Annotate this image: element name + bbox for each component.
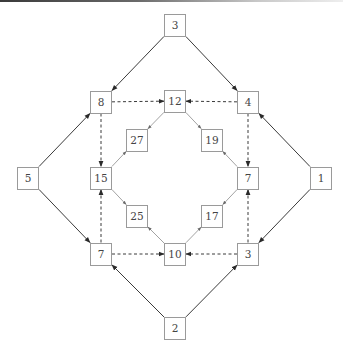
node-label: 7 [98,249,105,260]
edge-n7r-to-n17 [223,190,237,205]
node-label: 19 [205,135,218,146]
node-n8: 8 [90,91,112,114]
node-n7r: 7 [237,167,259,190]
edge-n10-to-n25 [148,227,164,243]
node-n12: 12 [164,90,186,113]
edge-n4-to-n12 [186,101,237,102]
node-label: 10 [168,249,181,260]
node-n25: 25 [126,205,148,228]
node-n17: 17 [201,205,223,228]
node-n10: 10 [164,243,186,266]
edge-n1-to-n3r [259,189,310,242]
node-n7l: 7 [90,243,112,266]
node-n1: 1 [310,167,332,190]
edge-n7r-to-n19 [223,152,237,167]
node-n19: 19 [201,129,223,152]
node-label: 7 [245,173,252,184]
edge-n2-to-n7l [112,265,164,317]
node-label: 1 [318,173,325,184]
edge-n5-to-n8 [39,113,90,166]
edge-n5-to-n7l [39,189,90,242]
node-label: 4 [245,97,252,108]
node-label: 3 [172,20,179,31]
node-label: 25 [130,211,143,222]
node-n4: 4 [237,91,259,114]
node-label: 17 [205,211,218,222]
node-label: 5 [25,173,32,184]
node-n27: 27 [126,129,148,152]
edge-n1-to-n4 [259,113,310,166]
edges-layer [0,0,343,351]
edge-n15-to-n25 [112,190,126,205]
node-top3: 3 [164,14,186,37]
edge-n10-to-n17 [186,227,201,242]
node-label: 3 [245,249,252,260]
node-label: 27 [130,135,143,146]
node-label: 8 [98,97,105,108]
edge-n8-to-n12 [112,101,164,102]
edge-top3-to-n8 [112,36,164,90]
node-n2: 2 [164,317,186,340]
node-n15: 15 [90,167,112,190]
node-label: 15 [94,173,107,184]
edge-n12-to-n19 [186,113,201,129]
node-n3r: 3 [237,243,259,266]
edge-n15-to-n27 [112,152,126,167]
edge-top3-to-n4 [186,37,237,91]
edge-n12-to-n27 [148,112,164,128]
node-label: 12 [168,96,181,107]
edge-n2-to-n3r [186,265,237,317]
node-label: 2 [172,323,179,334]
node-n5: 5 [17,167,39,190]
